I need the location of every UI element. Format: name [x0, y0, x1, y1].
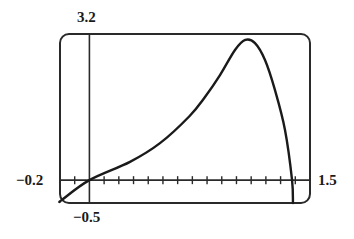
graph-plot — [0, 0, 354, 239]
function-curve — [59, 39, 293, 203]
graph-frame — [60, 34, 310, 203]
axes — [60, 34, 310, 203]
